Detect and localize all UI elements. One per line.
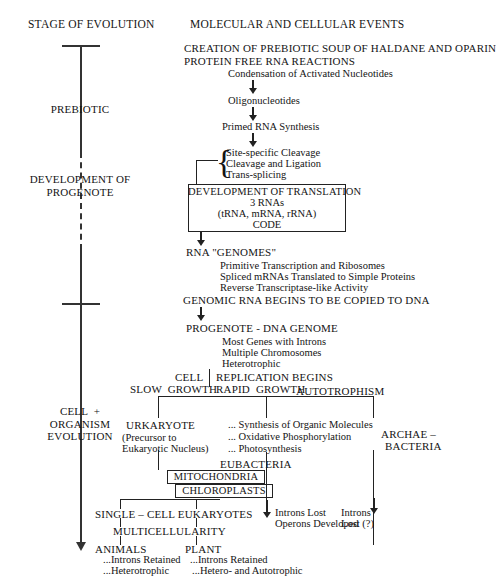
label-bacteria: BACTERIA xyxy=(385,440,442,452)
arrow-primed-rna-to-brace xyxy=(248,133,258,147)
connector-brace-vertical xyxy=(196,160,197,185)
middle-item-synthesis-organic-molecules: ... Synthesis of Organic Molecules xyxy=(228,419,373,430)
label-rapid-growth: RAPID GROWTH xyxy=(216,383,305,395)
translation-box-rna-types: (tRNA, mRNA, rRNA) xyxy=(188,208,346,219)
event-rna-genomes: RNA "GENOMES" xyxy=(186,246,276,258)
brace-item-trans-splicing: Trans-splicing xyxy=(226,169,286,180)
label-urkaryote-precursor: (Precursor to xyxy=(122,432,177,443)
arrow-translation-to-rna-genomes xyxy=(196,232,206,246)
connector-brace-horizontal xyxy=(196,160,218,161)
organelle-connector-bar xyxy=(120,499,220,500)
label-eubacteria: EUBACTERIA xyxy=(220,458,292,470)
progenote-item-heterotrophic: Heterotrophic xyxy=(222,358,280,369)
event-progenote-dna-genome: PROGENOTE - DNA GENOME xyxy=(186,322,338,334)
label-slow-growth: SLOW GROWTH xyxy=(130,383,217,395)
divider-slow-rapid-growth xyxy=(209,369,210,387)
animals-item-heterotrophic: ...Heterotrophic xyxy=(103,565,169,576)
brace-item-site-specific-cleavage: Site-specific Cleavage xyxy=(226,147,320,158)
event-oligonucleotides: Oligonucleotides xyxy=(228,95,300,106)
rna-genomes-item-reverse-transcriptase: Reverse Transcriptase-like Activity xyxy=(220,282,368,293)
event-protein-free-rna-reactions: PROTEIN FREE RNA REACTIONS xyxy=(184,55,355,67)
label-urkaryote-eukaryotic-nucleus: Eukaryotic Nucleus) xyxy=(122,443,209,454)
translation-box-3-rnas: 3 RNAs xyxy=(188,197,346,208)
event-genomic-rna-copied-to-dna: GENOMIC RNA BEGINS TO BE COPIED TO DNA xyxy=(183,294,430,306)
event-creation-of-prebiotic-soup: CREATION OF PREBIOTIC SOUP OF HALDANE AN… xyxy=(184,42,496,54)
event-condensation-of-activated-nucleotides: Condensation of Activated Nucleotides xyxy=(228,68,393,79)
label-cell: CELL xyxy=(175,371,203,383)
middle-item-photosynthesis: ... Photosynthesis xyxy=(228,443,302,454)
middle-item-oxidative-phosphorylation: ... Oxidative Phosphorylation xyxy=(228,431,351,442)
translation-box-title: DEVELOPMENT OF TRANSLATION xyxy=(188,186,346,197)
label-single-cell-eukaryotes: SINGLE – CELL EUKARYOTES xyxy=(95,508,252,520)
label-introns-right-2: Lost (?) xyxy=(341,518,374,529)
branch-stem-middle xyxy=(266,396,267,418)
progenote-item-most-genes-with-introns: Most Genes with Introns xyxy=(222,336,326,347)
arrow-oligonucleotides-to-primed-rna xyxy=(248,107,258,121)
arrow-condensation-to-oligonucleotides xyxy=(248,80,258,94)
rna-genomes-item-primitive-transcription: Primitive Transcription and Ribosomes xyxy=(220,260,385,271)
branch-stem-urkaryote xyxy=(158,396,159,418)
label-introns-lost: Introns Lost xyxy=(275,507,326,518)
timeline-axis-lower xyxy=(80,250,82,545)
timeline-arrowhead xyxy=(76,542,86,551)
label-multicellularity: MULTICELLULARITY xyxy=(113,525,226,537)
translation-box-code: CODE xyxy=(188,219,346,230)
plant-item-introns-retained: ...Introns Retained xyxy=(190,554,268,565)
label-replication-begins: REPLICATION BEGINS xyxy=(216,371,333,383)
event-primed-rna-synthesis: Primed RNA Synthesis xyxy=(222,121,319,132)
label-archae: ARCHAE – xyxy=(381,428,436,440)
brace-item-cleavage-and-ligation: Cleavage and Ligation xyxy=(226,158,321,169)
animals-item-introns-retained: ...Introns Retained xyxy=(103,554,181,565)
label-introns-right-1: Introns xyxy=(341,507,371,518)
header-molecular-cellular-events: MOLECULAR AND CELLULAR EVENTS xyxy=(190,18,404,30)
label-urkaryote: URKARYOTE xyxy=(126,419,195,431)
label-mitochondria: MITOCHONDRIA xyxy=(167,471,265,482)
timeline-stage-progenote: DEVELOPMENT OF PROGENOTE xyxy=(3,173,157,199)
rna-genomes-item-spliced-mrnas: Spliced mRNAs Translated to Simple Prote… xyxy=(220,271,415,282)
arrow-genomic-rna-to-progenote xyxy=(196,307,206,321)
branch-stem-archae xyxy=(373,396,374,418)
urkaryote-down-line xyxy=(158,450,159,470)
plant-item-hetero-autotrophic: ...Hetero- and Autotrophic xyxy=(192,565,303,576)
timeline-axis-dashed xyxy=(80,152,82,250)
timeline-tick-middle xyxy=(62,303,100,305)
label-chloroplasts: CHLOROPLASTS xyxy=(175,485,273,496)
label-autotrophism: AUTOTROPHISM xyxy=(296,385,384,397)
timeline-stage-prebiotic: PREBIOTIC xyxy=(18,103,142,115)
arrow-eubacteria-down xyxy=(262,500,272,518)
timeline-axis-upper xyxy=(80,45,82,152)
progenote-item-multiple-chromosomes: Multiple Chromosomes xyxy=(222,347,321,358)
header-stage-of-evolution: STAGE OF EVOLUTION xyxy=(28,18,155,30)
